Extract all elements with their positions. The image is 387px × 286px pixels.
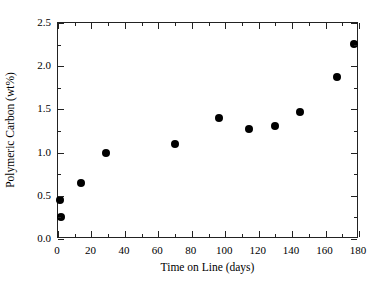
- y-axis-title-wrapper: Polymeric Carbon (wt%): [0, 22, 20, 238]
- y-axis-right-tick-minor: [354, 174, 357, 175]
- y-axis-tick-minor: [58, 45, 61, 46]
- y-axis-tick-major: [58, 196, 64, 197]
- y-axis-tick-major: [58, 109, 64, 110]
- x-axis-top-tick-major: [359, 23, 360, 29]
- y-axis-tick-label: 2.5: [11, 16, 51, 28]
- x-axis-top-tick-major: [326, 23, 327, 29]
- x-axis-tick-label: 180: [338, 244, 378, 256]
- x-axis-title: Time on Line (days): [57, 261, 358, 273]
- x-axis-top-tick-major: [292, 23, 293, 29]
- x-axis-top-tick-minor: [142, 23, 143, 26]
- data-point: [271, 122, 279, 130]
- y-axis-tick-label: 1.5: [11, 102, 51, 114]
- data-point: [296, 108, 304, 116]
- x-axis-top-tick-minor: [342, 23, 343, 26]
- x-axis-top-tick-minor: [309, 23, 310, 26]
- y-axis-right-tick-major: [351, 196, 357, 197]
- data-point: [102, 149, 110, 157]
- y-axis-tick-label: 0.0: [11, 232, 51, 244]
- x-axis-tick-minor: [142, 234, 143, 237]
- data-point: [56, 196, 64, 204]
- y-axis-right-tick-major: [351, 239, 357, 240]
- x-axis-tick-minor: [75, 234, 76, 237]
- x-axis-top-tick-major: [225, 23, 226, 29]
- plot-area: [58, 23, 357, 237]
- y-axis-tick-label: 2.0: [11, 59, 51, 71]
- x-axis-top-tick-minor: [209, 23, 210, 26]
- y-axis-tick-label: 0.5: [11, 189, 51, 201]
- y-axis-right-tick-major: [351, 109, 357, 110]
- data-point: [171, 140, 179, 148]
- x-axis-tick-major: [292, 231, 293, 237]
- x-axis-top-tick-major: [125, 23, 126, 29]
- y-axis-right-tick-minor: [354, 88, 357, 89]
- x-axis-tick-major: [225, 231, 226, 237]
- y-axis-tick-major: [58, 23, 64, 24]
- x-axis-top-tick-minor: [175, 23, 176, 26]
- x-axis-tick-minor: [342, 234, 343, 237]
- y-axis-tick-minor: [58, 217, 61, 218]
- y-axis-tick-minor: [58, 174, 61, 175]
- y-axis-tick-major: [58, 66, 64, 67]
- y-axis-title: Polymeric Carbon (wt%): [4, 72, 16, 188]
- y-axis-tick-major: [58, 153, 64, 154]
- x-axis-top-tick-major: [91, 23, 92, 29]
- x-axis-top-tick-major: [192, 23, 193, 29]
- x-axis-tick-minor: [108, 234, 109, 237]
- x-axis-tick-major: [192, 231, 193, 237]
- x-axis-tick-minor: [275, 234, 276, 237]
- x-axis-tick-minor: [175, 234, 176, 237]
- x-axis-top-tick-minor: [108, 23, 109, 26]
- x-axis-tick-major: [158, 231, 159, 237]
- y-axis-right-tick-minor: [354, 217, 357, 218]
- x-axis-tick-major: [58, 231, 59, 237]
- y-axis-tick-major: [58, 239, 64, 240]
- y-axis-tick-label: 1.0: [11, 146, 51, 158]
- y-axis-right-tick-major: [351, 23, 357, 24]
- y-axis-right-tick-minor: [354, 131, 357, 132]
- x-axis-top-tick-minor: [275, 23, 276, 26]
- y-axis-tick-minor: [58, 131, 61, 132]
- x-axis-tick-major: [326, 231, 327, 237]
- x-axis-top-tick-major: [259, 23, 260, 29]
- y-axis-right-tick-major: [351, 66, 357, 67]
- y-axis-tick-minor: [58, 88, 61, 89]
- y-axis-right-tick-major: [351, 153, 357, 154]
- x-axis-tick-major: [259, 231, 260, 237]
- plot-frame: [57, 22, 358, 238]
- scatter-chart-figure: Time on Line (days) Polymeric Carbon (wt…: [0, 0, 387, 286]
- data-point: [333, 73, 341, 81]
- x-axis-top-tick-minor: [242, 23, 243, 26]
- data-point: [215, 114, 223, 122]
- x-axis-top-tick-minor: [75, 23, 76, 26]
- y-axis-right-tick-minor: [354, 45, 357, 46]
- x-axis-tick-minor: [309, 234, 310, 237]
- x-axis-tick-minor: [209, 234, 210, 237]
- x-axis-top-tick-major: [158, 23, 159, 29]
- x-axis-tick-major: [125, 231, 126, 237]
- data-point: [77, 179, 85, 187]
- x-axis-tick-major: [91, 231, 92, 237]
- x-axis-tick-minor: [242, 234, 243, 237]
- data-point: [245, 125, 253, 133]
- x-axis-tick-major: [359, 231, 360, 237]
